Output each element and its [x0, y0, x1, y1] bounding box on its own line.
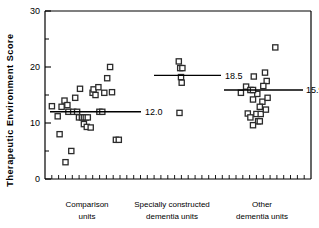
category-label-other-dementia-line2: dementia units [236, 212, 288, 221]
data-point [261, 83, 266, 88]
scatter-plot: Therapeutic Environment Score 30 20 10 0 [0, 0, 319, 228]
data-point [65, 103, 70, 108]
data-point [116, 137, 121, 142]
data-point [85, 115, 90, 120]
data-point [88, 125, 93, 130]
y-tick-label-10: 10 [30, 118, 40, 128]
data-point [273, 45, 278, 50]
category-label-other-dementia-line1: Other [252, 200, 272, 209]
data-point [257, 119, 262, 124]
data-point [251, 74, 256, 79]
data-point [102, 90, 107, 95]
data-point [57, 132, 62, 137]
data-point [262, 70, 267, 75]
data-point [77, 86, 82, 91]
data-point [180, 66, 185, 71]
data-point [177, 110, 182, 115]
data-points-comparison-units [49, 64, 121, 164]
y-tick-label-30: 30 [30, 6, 40, 16]
data-point [109, 90, 114, 95]
data-point [250, 97, 255, 102]
plot-frame [45, 11, 311, 179]
x-category-labels: Comparison units Specially constructed d… [65, 200, 288, 221]
data-point [260, 99, 265, 104]
data-point [96, 85, 101, 90]
category-label-comparison-units-line1: Comparison [65, 200, 108, 209]
chart-figure: Therapeutic Environment Score 30 20 10 0 [0, 0, 319, 228]
data-point [93, 92, 98, 97]
data-point [248, 115, 253, 120]
data-point [108, 64, 113, 69]
mean-label-other-dementia: 15.9 [306, 85, 319, 95]
data-point [73, 95, 78, 100]
data-point [63, 160, 68, 165]
data-points-specially-constructed [176, 59, 185, 116]
data-point [263, 107, 268, 112]
category-label-specially-constructed-line2: dementia units [146, 212, 198, 221]
data-point [176, 59, 181, 64]
data-point [59, 104, 64, 109]
data-point [49, 104, 54, 109]
data-point [238, 90, 243, 95]
y-tick-labels: 30 20 10 0 [30, 6, 40, 184]
data-point [250, 123, 255, 128]
data-point [265, 95, 270, 100]
data-point [105, 76, 110, 81]
mean-label-specially-constructed: 18.5 [225, 71, 243, 81]
data-point [179, 80, 184, 85]
category-label-specially-constructed-line1: Specially constructed [134, 200, 210, 209]
data-point [258, 111, 263, 116]
y-tick-label-20: 20 [30, 62, 40, 72]
data-point [69, 148, 74, 153]
category-label-comparison-units-line2: units [79, 212, 96, 221]
y-tick-label-0: 0 [35, 174, 40, 184]
data-point [55, 114, 60, 119]
y-axis-title: Therapeutic Environment Score [5, 33, 15, 186]
mean-label-comparison-units: 12.0 [145, 107, 163, 117]
data-points-other-dementia [238, 45, 278, 128]
data-point [257, 104, 262, 109]
